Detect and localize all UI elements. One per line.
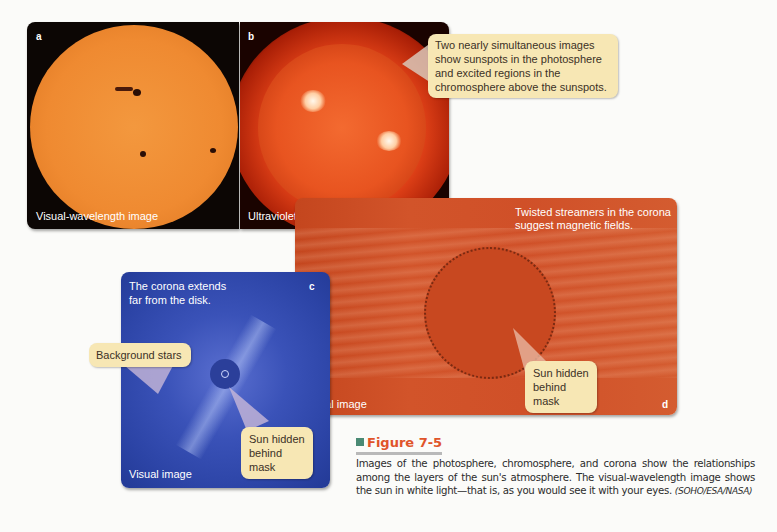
sunspot (115, 87, 133, 91)
callout-c-mask: Sun hidden behind mask (241, 427, 313, 479)
photosphere-disk (30, 25, 238, 229)
panel-label: Visual image (129, 468, 192, 480)
panel-note: The corona extends far from the disk. (129, 279, 239, 307)
panel-a-visual: a Visual-wavelength image (27, 22, 239, 229)
figure-heading: Figure 7-5 (356, 433, 442, 455)
figure-caption: Images of the photosphere, chromosphere,… (356, 457, 755, 499)
sunspot (133, 89, 141, 96)
panel-letter: c (309, 281, 315, 292)
panel-d-corona: Twisted streamers in the corona suggest … (295, 198, 677, 415)
panel-label: Ultraviolet (248, 210, 297, 222)
chromosphere-disk (258, 44, 426, 212)
panel-label: Visual-wavelength image (36, 210, 158, 222)
image-credit: (SOHO/ESA/NASA) (675, 486, 753, 496)
callout-stars: Background stars (89, 343, 191, 367)
figure-marker-icon (356, 438, 364, 446)
figure-number: Figure 7-5 (367, 435, 442, 450)
sunspot (140, 151, 146, 157)
panel-note: Twisted streamers in the corona suggest … (515, 206, 675, 232)
heading-rule (356, 452, 442, 455)
active-region (300, 90, 326, 112)
panel-letter: b (248, 31, 254, 42)
panel-letter: a (36, 31, 42, 42)
callout-d-mask: Sun hidden behind mask (525, 361, 597, 413)
callout-ab: Two nearly simultaneous images show suns… (428, 34, 618, 98)
sun-position-marker (221, 370, 229, 378)
panel-letter: d (662, 399, 668, 410)
active-region (376, 131, 402, 151)
sunspot (210, 148, 216, 153)
callout-pointer (118, 360, 188, 410)
